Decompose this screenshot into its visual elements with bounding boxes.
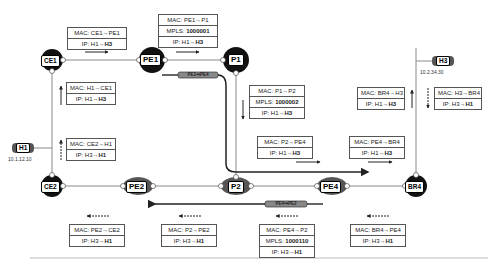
node-ce1-label: CE1 [41, 55, 60, 67]
mac-header: MAC: PE2→CE2 [70, 225, 124, 236]
header-box-p2-pe2: MAC: P2→PE2 IP: H3→H1 [161, 224, 217, 247]
ip-header: IP: H1→H3 [258, 148, 312, 158]
mac-header: MAC: P1→P2 [250, 86, 304, 97]
ip-header: IP: H1→H3 [159, 37, 217, 47]
mpls-header: MPLS: 1000001 [159, 26, 217, 37]
header-box-ce2-h1: MAC: CE2→H1 IP: H3→H1 [66, 138, 116, 161]
h3-ip-address: 10.2.34.30 [420, 69, 444, 75]
node-p1-label: P1 [228, 54, 244, 66]
ip-header: IP: H3→H1 [351, 236, 405, 246]
ip-header: IP: H3→H1 [435, 99, 481, 109]
node-pe4-label: PE4 [320, 181, 341, 193]
mac-header: MAC: H3→BR4 [435, 88, 481, 99]
ip-header: IP: H1→H3 [250, 108, 304, 118]
ip-header: IP: H1→H3 [350, 148, 404, 158]
tunnel-pe4-pe2-label: PE4⇒PE2 [265, 201, 307, 206]
node-h1-label: H1 [16, 143, 30, 153]
mac-header: MAC: BR4→H3 [358, 88, 404, 99]
ip-header: IP: H3→H1 [162, 236, 216, 246]
node-ce2-label: CE2 [41, 181, 60, 193]
ip-header: IP: H1→H3 [68, 39, 126, 49]
mac-header: MAC: CE1→PE1 [68, 28, 126, 39]
h1-ip-address: 10.1.12.10 [8, 156, 32, 162]
tunnel-pe1-pe4-label: PE1⇒PE4 [178, 72, 218, 77]
node-pe2-label: PE2 [126, 181, 147, 193]
mac-header: MAC: P2→PE2 [162, 225, 216, 236]
header-box-p1-p2: MAC: P1→P2 MPLS: 1000002 IP: H1→H3 [249, 85, 305, 119]
mac-header: MAC: PE1→P1 [159, 15, 217, 26]
mpls-packet-flow-diagram: CE1 PE1 P1 CE2 PE2 P2 PE4 BR4 H1 H3 10.1… [0, 0, 498, 270]
ip-header: IP: H3→H1 [70, 236, 124, 246]
header-box-h1-ce1: MAC: H1→CE1 IP: H1→H3 [66, 82, 116, 105]
header-box-br4-pe4: MAC: BR4→PE4 IP: H3→H1 [350, 224, 406, 247]
mac-header: MAC: BR4→PE4 [351, 225, 405, 236]
header-box-h3-br4: MAC: H3→BR4 IP: H3→H1 [434, 87, 482, 110]
mac-header: MAC: H1→CE1 [67, 83, 115, 94]
node-h3-label: H3 [436, 56, 450, 66]
mac-header: MAC: CE2→H1 [67, 139, 115, 150]
header-box-ce1-pe1: MAC: CE1→PE1 IP: H1→H3 [67, 27, 127, 50]
header-box-pe2-ce2: MAC: PE2→CE2 IP: H3→H1 [69, 224, 125, 247]
ip-header: IP: H1→H3 [67, 94, 115, 104]
mac-header: MAC: PE4→P2 [260, 225, 314, 236]
header-box-p2-pe4: MAC: P2→PE4 IP: H1→H3 [257, 136, 313, 159]
header-box-pe4-p2: MAC: PE4→P2 MPLS: 1000110 IP: H3→H1 [259, 224, 315, 258]
node-pe1-label: PE1 [140, 54, 161, 66]
node-br4-label: BR4 [405, 181, 424, 193]
node-p2-label: P2 [228, 181, 244, 193]
mac-header: MAC: PE4→BR4 [350, 137, 404, 148]
ip-header: IP: H3→H1 [260, 247, 314, 257]
mac-header: MAC: P2→PE4 [258, 137, 312, 148]
header-box-pe4-br4: MAC: PE4→BR4 IP: H1→H3 [349, 136, 405, 159]
header-box-pe1-p1: MAC: PE1→P1 MPLS: 1000001 IP: H1→H3 [158, 14, 218, 48]
ip-header: IP: H1→H3 [358, 99, 404, 109]
mpls-header: MPLS: 1000110 [260, 236, 314, 247]
header-box-br4-h3: MAC: BR4→H3 IP: H1→H3 [357, 87, 405, 110]
ip-header: IP: H3→H1 [67, 150, 115, 160]
mpls-header: MPLS: 1000002 [250, 97, 304, 108]
